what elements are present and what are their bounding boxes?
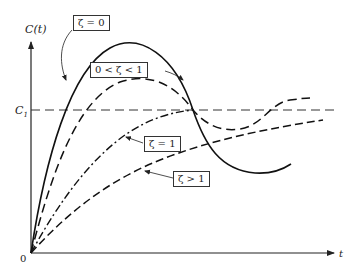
label-zeta-1: ζ = 1 xyxy=(144,136,181,152)
origin-label: 0 xyxy=(20,253,26,264)
callout-arrow-zeta-overdamped xyxy=(145,171,173,178)
curve-zeta-underdamped xyxy=(31,79,310,253)
c1-label-sub: 1 xyxy=(23,111,27,119)
curve-zeta-1 xyxy=(31,110,193,253)
label-zeta-overdamped: ζ > 1 xyxy=(173,171,210,187)
label-zeta-0: ζ = 0 xyxy=(73,15,110,31)
callout-arrow-zeta-0 xyxy=(61,30,72,80)
callout-arrow-zeta-1 xyxy=(126,137,143,143)
callout-arrow-zeta-underdamped xyxy=(165,71,183,80)
label-zeta-underdamped: 0 < ζ < 1 xyxy=(90,62,148,78)
c1-label: C1 xyxy=(15,104,28,119)
y-axis-label: C(t) xyxy=(25,23,46,36)
x-axis-label: t xyxy=(339,248,344,259)
